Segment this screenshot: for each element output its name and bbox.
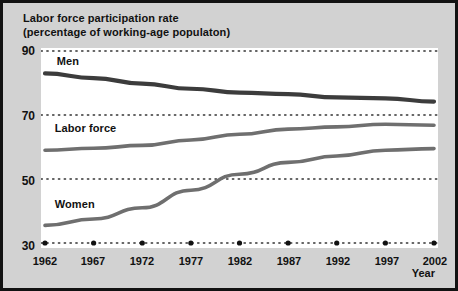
- x-tick-label-1997: 1997: [365, 255, 409, 267]
- x-tick-dot-1967: [91, 240, 96, 245]
- series-label-men: Men: [57, 55, 79, 67]
- x-axis-title: Year: [412, 267, 435, 279]
- chart-title-block: Labor force participation rate (percenta…: [23, 11, 230, 39]
- chart-figure: Labor force participation rate (percenta…: [0, 0, 458, 291]
- series-lines: [45, 73, 434, 225]
- x-tick-label-1992: 1992: [316, 255, 360, 267]
- x-tick-label-1962: 1962: [23, 255, 67, 267]
- line-men: [45, 73, 434, 101]
- y-tick-label-70: 70: [9, 109, 35, 123]
- chart-subtitle: (percentage of working-age populaton): [23, 25, 230, 39]
- x-tick-dot-1982: [237, 240, 242, 245]
- x-tick-dot-1997: [383, 240, 388, 245]
- x-tick-label-1987: 1987: [267, 255, 311, 267]
- series-label-women: Women: [55, 198, 95, 210]
- x-tick-dot-1977: [188, 240, 193, 245]
- x-tick-label-1977: 1977: [169, 255, 213, 267]
- y-tick-label-90: 90: [9, 44, 35, 58]
- x-tick-label-1967: 1967: [71, 255, 115, 267]
- y-tick-label-50: 50: [9, 174, 35, 188]
- x-tick-label-1982: 1982: [218, 255, 262, 267]
- series-label-labor-force: Labor force: [55, 122, 117, 134]
- x-tick-label-1972: 1972: [120, 255, 164, 267]
- chart-title: Labor force participation rate: [23, 11, 230, 25]
- line-women: [45, 149, 434, 226]
- y-tick-label-30: 30: [9, 239, 35, 253]
- x-tick-label-2002: 2002: [413, 255, 457, 267]
- x-tick-dot-1987: [286, 240, 291, 245]
- x-tick-dot-1972: [140, 240, 145, 245]
- x-tick-dot-2002: [431, 240, 436, 245]
- x-tick-dot-1992: [334, 240, 339, 245]
- plot-area: Men Labor force Women: [41, 48, 438, 248]
- x-tick-dot-1962: [42, 240, 47, 245]
